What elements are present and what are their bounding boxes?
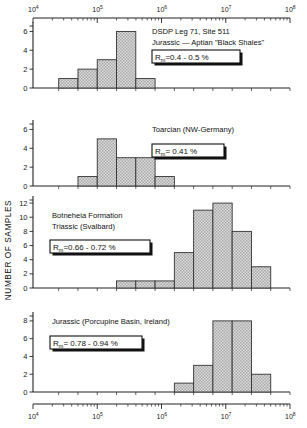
bar [232,231,251,288]
bar [136,281,155,288]
svg-text:107: 107 [221,4,232,13]
top-axis [33,18,290,23]
panel-3: 024681012Botneheia FormationTriassic (Sv… [19,196,290,293]
svg-text:2: 2 [23,65,27,74]
svg-text:2: 2 [23,163,27,172]
svg-text:6: 6 [23,125,27,134]
panel-4-title: Jurassic (Porcupine Basin, Ireland) [52,317,170,326]
panel-2-title: Toarcian (NW-Germany) [152,125,235,134]
bar [174,253,193,288]
svg-text:4: 4 [23,144,27,153]
bar [97,60,116,88]
panel-4-bars [174,321,270,392]
svg-text:108: 108 [285,4,296,13]
svg-text:Rm=0.66 - 0.72 %: Rm=0.66 - 0.72 % [53,243,116,253]
bar [78,69,97,88]
svg-text:105: 105 [92,4,103,13]
bar [213,203,232,288]
svg-text:2: 2 [23,370,27,379]
panel-2-rm-box: Rm= 0.41 % [152,144,227,160]
panel-4-rm-box: Rm= 0.78 - 0.94 % [50,336,145,352]
panel-1-title: DSDP Leg 71, Site 511 [152,27,230,36]
bar [232,321,251,392]
panel-1-subtitle: Jurassic — Aptian "Black Shales" [152,38,264,47]
bar [251,267,270,288]
svg-text:12: 12 [19,199,27,208]
bottom-axis [33,404,290,409]
figure-svg: 1041051061071080246DSDP Leg 71, Site 511… [0,0,307,428]
svg-text:0: 0 [23,182,27,191]
bar [251,374,270,392]
bar [78,177,97,186]
svg-text:6: 6 [23,27,27,36]
bar [117,281,136,288]
svg-text:107: 107 [221,411,232,420]
svg-text:4: 4 [23,352,27,361]
svg-text:Rm= 0.78 - 0.94 %: Rm= 0.78 - 0.94 % [53,339,118,349]
panel-1: 0246DSDP Leg 71, Site 511Jurassic — Apti… [23,22,290,93]
y-axis-label: NUMBER OF SAMPLES [4,200,13,300]
bar [136,79,155,88]
panel-3-title: Botneheia Formation [52,211,123,220]
bar [194,365,213,392]
bottom-axis-labels: 104105106107108 [28,411,296,420]
svg-text:2: 2 [23,269,27,278]
panel-3-rm-box: Rm=0.66 - 0.72 % [50,240,153,256]
svg-text:0: 0 [23,284,27,293]
svg-text:108: 108 [285,411,296,420]
bar [155,177,174,186]
panel-4: 02468Jurassic (Porcupine Basin, Ireland)… [23,312,290,397]
bar [117,31,136,88]
bar [59,79,78,88]
bar [97,139,116,186]
svg-text:106: 106 [157,411,168,420]
svg-text:4: 4 [23,46,27,55]
bar [213,321,232,392]
histogram-figure: 1041051061071080246DSDP Leg 71, Site 511… [0,0,307,428]
panel-1-rm-box: Rm=0.4 - 0.5 % [152,50,243,66]
svg-text:104: 104 [28,4,39,13]
top-axis-labels: 104105106107108 [28,4,296,13]
bar [117,158,136,186]
svg-text:0: 0 [23,84,27,93]
svg-text:8: 8 [23,227,27,236]
svg-text:6: 6 [23,334,27,343]
panel-3-subtitle: Triassic (Svalbard) [52,222,115,231]
svg-text:6: 6 [23,241,27,250]
svg-text:0: 0 [23,388,27,397]
bar [194,210,213,288]
bar [174,383,193,392]
svg-text:104: 104 [28,411,39,420]
svg-text:106: 106 [157,4,168,13]
svg-text:10: 10 [19,213,27,222]
svg-text:4: 4 [23,255,27,264]
panel-1-bars [59,31,155,88]
bar [155,281,174,288]
svg-text:105: 105 [92,411,103,420]
svg-text:8: 8 [23,316,27,325]
bar [136,158,155,186]
panel-2: 0246Toarcian (NW-Germany)Rm= 0.41 % [23,120,290,191]
